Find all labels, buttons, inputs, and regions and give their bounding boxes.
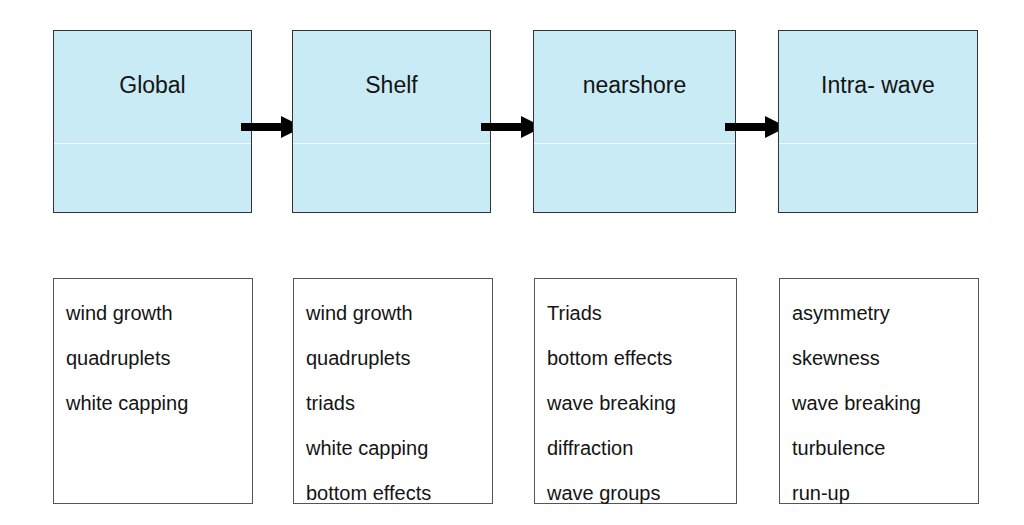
process-item: wind growth	[306, 291, 431, 336]
stage-title: nearshore	[534, 71, 735, 99]
stage-title: Shelf	[293, 71, 490, 99]
process-item: wave breaking	[792, 381, 921, 426]
process-item: bottom effects	[547, 336, 676, 381]
process-box-shelf: wind growth quadruplets triads white cap…	[293, 278, 493, 504]
box-divider	[293, 143, 490, 144]
process-item: diffraction	[547, 426, 676, 471]
process-list: asymmetry skewness wave breaking turbule…	[792, 291, 921, 516]
process-item: quadruplets	[66, 336, 188, 381]
process-box-nearshore: Triads bottom effects wave breaking diff…	[534, 278, 737, 504]
process-item: quadruplets	[306, 336, 431, 381]
process-box-global: wind growth quadruplets white capping	[53, 278, 253, 504]
stage-title: Global	[54, 71, 251, 99]
process-item: wave breaking	[547, 381, 676, 426]
process-item: bottom effects	[306, 471, 431, 516]
process-item: asymmetry	[792, 291, 921, 336]
process-item: white capping	[306, 426, 431, 471]
stage-box-shelf: Shelf	[292, 30, 491, 213]
box-divider	[54, 143, 251, 144]
stage-box-nearshore: nearshore	[533, 30, 736, 213]
stage-box-intra-wave: Intra- wave	[778, 30, 978, 213]
process-item: skewness	[792, 336, 921, 381]
process-box-intra-wave: asymmetry skewness wave breaking turbule…	[779, 278, 979, 504]
process-item: run-up	[792, 471, 921, 516]
process-item: triads	[306, 381, 431, 426]
box-divider	[534, 143, 735, 144]
process-list: wind growth quadruplets white capping	[66, 291, 188, 426]
process-item: wave groups	[547, 471, 676, 516]
box-divider	[779, 143, 977, 144]
process-item: turbulence	[792, 426, 921, 471]
process-list: Triads bottom effects wave breaking diff…	[547, 291, 676, 516]
process-list: wind growth quadruplets triads white cap…	[306, 291, 431, 516]
process-item: Triads	[547, 291, 676, 336]
stage-box-global: Global	[53, 30, 252, 213]
process-item: white capping	[66, 381, 188, 426]
process-item: wind growth	[66, 291, 188, 336]
stage-title: Intra- wave	[779, 71, 977, 99]
